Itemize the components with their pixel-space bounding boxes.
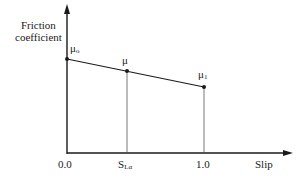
y-axis-label: Friction coefficient — [15, 19, 62, 43]
label-mu1-sub: 1 — [204, 73, 208, 81]
point-mu1 — [202, 85, 206, 89]
x-tick-0: 0.0 — [58, 158, 72, 170]
label-mu: μ — [122, 54, 128, 66]
label-mu0: μo — [70, 42, 79, 55]
y-axis-arrow-icon — [64, 4, 70, 14]
x-axis-label: Slip — [255, 158, 273, 170]
y-axis-label-line2: coefficient — [15, 31, 62, 43]
x-tick-sla: SLα — [118, 158, 132, 171]
point-mu0 — [65, 57, 69, 61]
point-mu — [125, 69, 129, 73]
label-mu-main: μ — [122, 54, 128, 66]
friction-slip-diagram: Friction coefficient μo μ μ1 0.0 SLα 1.0… — [0, 0, 308, 181]
x-tick-1: 1.0 — [196, 158, 210, 170]
label-mu0-sub: o — [76, 47, 80, 55]
label-mu1: μ1 — [198, 68, 207, 81]
friction-line — [67, 59, 204, 87]
x-axis-arrow-icon — [283, 150, 293, 156]
x-tick-sla-sub: Lα — [124, 163, 132, 171]
y-axis-label-line1: Friction — [15, 19, 62, 31]
